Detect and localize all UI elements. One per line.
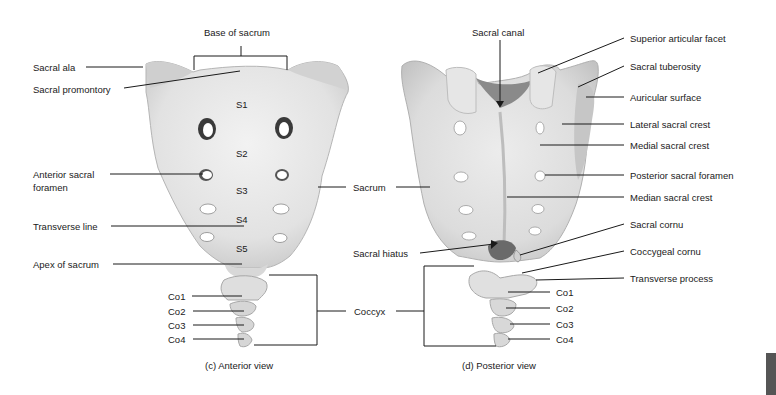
label-posterior-co2: Co2 <box>556 303 573 314</box>
segment-s1: S1 <box>236 99 248 110</box>
segment-s2: S2 <box>236 148 248 159</box>
label-transverse-process: Transverse process <box>630 273 713 284</box>
label-sacral-canal: Sacral canal <box>472 27 524 38</box>
label-coccyx: Coccyx <box>354 306 385 317</box>
label-anterior-co4: Co4 <box>168 334 185 345</box>
label-sacral-ala: Sacral ala <box>33 62 75 73</box>
label-anterior-co1: Co1 <box>168 291 185 302</box>
label-median-sacral-crest: Median sacral crest <box>630 192 712 203</box>
label-posterior-sacral-foramen: Posterior sacral foramen <box>630 170 733 181</box>
label-anterior-sacral-foramen-line1: Anterior sacral <box>33 169 94 180</box>
label-sacral-tuberosity: Sacral tuberosity <box>630 61 701 72</box>
label-coccygeal-cornu: Coccygeal cornu <box>630 246 701 257</box>
label-sacrum: Sacrum <box>353 182 386 193</box>
label-transverse-line: Transverse line <box>33 221 98 232</box>
label-medial-sacral-crest: Medial sacral crest <box>630 140 709 151</box>
caption-anterior-view: (c) Anterior view <box>205 360 273 371</box>
label-sacral-hiatus: Sacral hiatus <box>353 248 408 259</box>
sacrum-coccyx-figure: Base of sacrum Sacral ala Sacral promont… <box>0 0 776 395</box>
posterior-coccyx <box>469 271 537 347</box>
segment-s3: S3 <box>236 185 248 196</box>
label-apex-of-sacrum: Apex of sacrum <box>33 259 99 270</box>
segment-s5: S5 <box>236 243 248 254</box>
label-anterior-sacral-foramen-line2: foramen <box>33 182 68 193</box>
label-lateral-sacral-crest: Lateral sacral crest <box>630 119 710 130</box>
label-auricular-surface: Auricular surface <box>630 92 701 103</box>
label-sacral-cornu: Sacral cornu <box>630 219 683 230</box>
label-posterior-co3: Co3 <box>556 319 573 330</box>
label-superior-articular-facet: Superior articular facet <box>630 33 726 44</box>
label-posterior-co4: Co4 <box>556 334 573 345</box>
label-posterior-co1: Co1 <box>556 287 573 298</box>
label-base-of-sacrum: Base of sacrum <box>204 27 270 38</box>
label-anterior-co3: Co3 <box>168 320 185 331</box>
label-sacral-promontory: Sacral promontory <box>33 84 111 95</box>
segment-s4: S4 <box>236 214 248 225</box>
label-anterior-co2: Co2 <box>168 306 185 317</box>
caption-posterior-view: (d) Posterior view <box>462 360 536 371</box>
page-edge-tab <box>766 353 776 395</box>
